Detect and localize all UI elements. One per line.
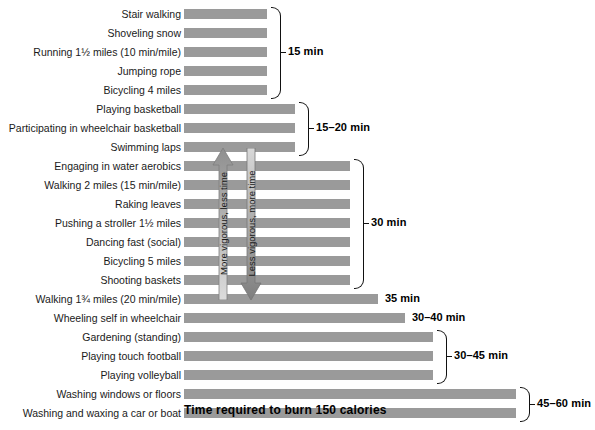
time-range-label: 35 min bbox=[385, 292, 420, 304]
activity-bar bbox=[184, 256, 350, 266]
down-arrow-label: Less vigorous, more time bbox=[246, 158, 257, 290]
activity-label: Wheeling self in wheelchair bbox=[0, 312, 181, 325]
chart-row: Dancing fast (social) bbox=[0, 234, 595, 253]
chart-row: Bicycling 4 miles bbox=[0, 82, 595, 101]
activity-label: Stair walking bbox=[0, 8, 181, 21]
chart-row: Stair walking bbox=[0, 6, 595, 25]
activity-bar bbox=[184, 332, 433, 342]
chart-row: Shoveling snow bbox=[0, 25, 595, 44]
bracket-nub bbox=[363, 223, 369, 224]
activity-bar bbox=[184, 218, 350, 228]
activity-label: Shooting baskets bbox=[0, 274, 181, 287]
activity-bar bbox=[184, 28, 267, 38]
activity-label: Dancing fast (social) bbox=[0, 236, 181, 249]
chart-row: Gardening (standing) bbox=[0, 329, 595, 348]
activity-label: Playing basketball bbox=[0, 103, 181, 116]
activity-calorie-burn-chart: Stair walkingShoveling snowRunning 1½ mi… bbox=[0, 0, 595, 430]
chart-row: Bicycling 5 miles bbox=[0, 253, 595, 272]
activity-label: Gardening (standing) bbox=[0, 331, 181, 344]
chart-row: Playing basketball bbox=[0, 101, 595, 120]
activity-bar bbox=[184, 104, 295, 114]
activity-bar bbox=[184, 85, 267, 95]
activity-label: Engaging in water aerobics bbox=[0, 160, 181, 173]
activity-label: Raking leaves bbox=[0, 198, 181, 211]
activity-label: Walking 1¾ miles (20 min/mile) bbox=[0, 293, 181, 306]
activity-bar bbox=[184, 199, 350, 209]
bracket-nub bbox=[529, 404, 535, 405]
activity-label: Shoveling snow bbox=[0, 27, 181, 40]
more-vigorous-up-arrow: More vigorous, less time bbox=[212, 148, 234, 300]
chart-row: Raking leaves bbox=[0, 196, 595, 215]
activity-label: Participating in wheelchair basketball bbox=[0, 122, 181, 135]
activity-label: Washing windows or floors bbox=[0, 388, 181, 401]
chart-row: Walking 2 miles (15 min/mile) bbox=[0, 177, 595, 196]
activity-bar bbox=[184, 237, 350, 247]
chart-title: Time required to burn 150 calories bbox=[184, 403, 387, 417]
activity-label: Playing volleyball bbox=[0, 369, 181, 382]
activity-bar bbox=[184, 161, 350, 171]
chart-row: Wheeling self in wheelchair bbox=[0, 310, 595, 329]
activity-bar bbox=[184, 389, 516, 399]
activity-label: Bicycling 5 miles bbox=[0, 255, 181, 268]
activity-bar bbox=[184, 313, 405, 323]
less-vigorous-down-arrow: Less vigorous, more time bbox=[240, 148, 262, 300]
activity-label: Bicycling 4 miles bbox=[0, 84, 181, 97]
activity-bar bbox=[184, 180, 350, 190]
chart-row: Shooting baskets bbox=[0, 272, 595, 291]
bracket-nub bbox=[308, 128, 314, 129]
bracket-nub bbox=[280, 52, 286, 53]
bracket-nub bbox=[446, 356, 452, 357]
chart-row: Pushing a stroller 1½ miles bbox=[0, 215, 595, 234]
time-range-label: 30–40 min bbox=[412, 311, 465, 323]
chart-row: Swimming laps bbox=[0, 139, 595, 158]
activity-label: Running 1½ miles (10 min/mile) bbox=[0, 46, 181, 59]
time-range-label: 30 min bbox=[371, 216, 406, 228]
chart-row: Walking 1¾ miles (20 min/mile) bbox=[0, 291, 595, 310]
time-range-label: 45–60 min bbox=[537, 397, 591, 409]
activity-bar bbox=[184, 351, 433, 361]
activity-bar bbox=[184, 66, 267, 76]
activity-label: Washing and waxing a car or boat bbox=[0, 407, 181, 420]
chart-row: Engaging in water aerobics bbox=[0, 158, 595, 177]
activity-bar bbox=[184, 123, 295, 133]
chart-row: Participating in wheelchair basketball bbox=[0, 120, 595, 139]
activity-label: Pushing a stroller 1½ miles bbox=[0, 217, 181, 230]
activity-bar bbox=[184, 47, 267, 57]
activity-bar bbox=[184, 275, 350, 285]
chart-row: Playing volleyball bbox=[0, 367, 595, 386]
activity-label: Playing touch football bbox=[0, 350, 181, 363]
activity-bar bbox=[184, 9, 267, 19]
up-arrow-label: More vigorous, less time bbox=[218, 158, 229, 290]
activity-label: Swimming laps bbox=[0, 141, 181, 154]
activity-label: Jumping rope bbox=[0, 65, 181, 78]
activity-label: Walking 2 miles (15 min/mile) bbox=[0, 179, 181, 192]
time-range-label: 15 min bbox=[288, 45, 323, 57]
time-range-label: 30–45 min bbox=[454, 349, 508, 361]
time-range-label: 15–20 min bbox=[316, 121, 370, 133]
activity-bar bbox=[184, 370, 433, 380]
chart-row: Jumping rope bbox=[0, 63, 595, 82]
